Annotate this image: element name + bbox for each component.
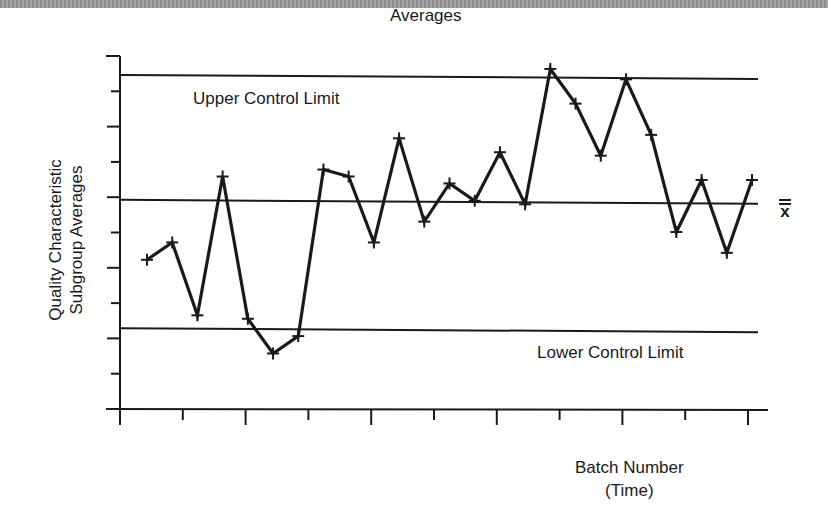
upper-control-limit-label: Upper Control Limit [193,89,339,109]
lower-control-limit-line [120,328,758,332]
axes [106,56,768,425]
plus-marker-icon [494,146,506,158]
upper-control-limit-line [120,75,758,79]
plus-marker-icon [721,247,733,259]
plus-marker-icon [191,309,203,321]
control-limit-lines [120,75,758,332]
y-axis-label: Quality Characteristic Subgroup Averages [45,159,87,321]
y-axis-label-line-1: Quality Characteristic [45,159,66,321]
y-axis-label-line-2: Subgroup Averages [66,159,87,321]
data-series-line [147,69,752,354]
plus-marker-icon [343,171,355,183]
plus-marker-icon [217,171,229,183]
plus-marker-icon [746,174,758,186]
grand-mean-letter: x [780,202,789,221]
plus-marker-icon [595,150,607,162]
lower-control-limit-label: Lower Control Limit [537,343,683,363]
x-axis-line [106,409,768,410]
x-axis-label-line-2: (Time) [575,479,684,502]
plus-marker-icon [317,164,329,176]
grand-mean-symbol: x [779,199,791,218]
x-axis-label: Batch Number (Time) [575,456,684,502]
chart-title: Averages [390,6,462,26]
x-axis-label-line-1: Batch Number [575,456,684,479]
plus-marker-icon [368,236,380,248]
plus-marker-icon [645,129,657,141]
plus-marker-icon [696,174,708,186]
plus-marker-icon [393,132,405,144]
plus-marker-icon [620,73,632,85]
control-chart [0,0,828,532]
plus-marker-icon [670,226,682,238]
plus-marker-icon [519,198,531,210]
